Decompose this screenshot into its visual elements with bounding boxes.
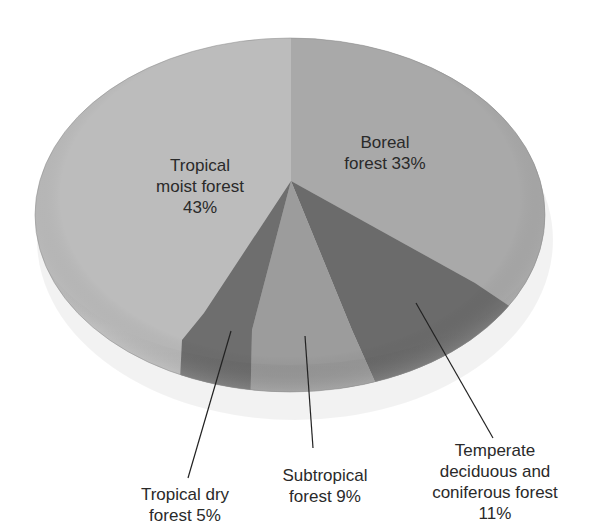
label-subtropical-line1: Subtropical [265,465,385,486]
label-subtropical: Subtropical forest 9% [265,465,385,507]
label-tropical-dry-line1: Tropical dry [125,484,245,505]
label-temperate-line2: deciduous and [410,461,580,482]
label-temperate: Temperate deciduous and coniferous fores… [410,440,580,524]
label-temperate-line3: coniferous forest [410,482,580,503]
label-temperate-line4: 11% [410,503,580,524]
label-tropical-moist-line2: moist forest [140,176,260,197]
label-tropical-moist: Tropical moist forest 43% [140,155,260,218]
label-boreal-line2: forest 33% [325,153,445,174]
label-boreal-line1: Boreal [325,132,445,153]
label-tropical-dry: Tropical dry forest 5% [125,484,245,525]
label-tropical-moist-line1: Tropical [140,155,260,176]
label-boreal: Boreal forest 33% [325,132,445,174]
label-tropical-dry-line2: forest 5% [125,505,245,525]
label-tropical-moist-line3: 43% [140,197,260,218]
label-temperate-line1: Temperate [410,440,580,461]
label-subtropical-line2: forest 9% [265,486,385,507]
